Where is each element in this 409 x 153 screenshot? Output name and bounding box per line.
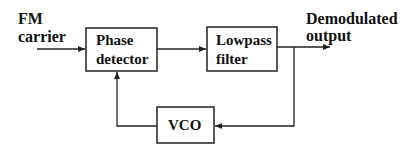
output-label-line2: output [306, 27, 398, 44]
phase-detector-line1: Phase [96, 31, 148, 50]
output-label-line1: Demodulated [306, 10, 398, 27]
vco-label: VCO [168, 116, 201, 135]
output-label: Demodulated output [306, 10, 398, 44]
input-label: FM carrier [18, 10, 66, 45]
pll-fm-demodulator-diagram: FM carrier Demodulated output Phase dete… [0, 0, 409, 153]
vco-to-pd-arrow [117, 72, 157, 126]
lowpass-filter-line1: Lowpass [216, 31, 272, 50]
lowpass-filter-label: Lowpass filter [216, 31, 272, 69]
input-label-line1: FM [18, 10, 66, 27]
phase-detector-label: Phase detector [96, 31, 148, 69]
lowpass-filter-line2: filter [216, 50, 272, 69]
vco-line1: VCO [168, 116, 201, 135]
input-label-line2: carrier [18, 28, 66, 45]
phase-detector-line2: detector [96, 50, 148, 69]
